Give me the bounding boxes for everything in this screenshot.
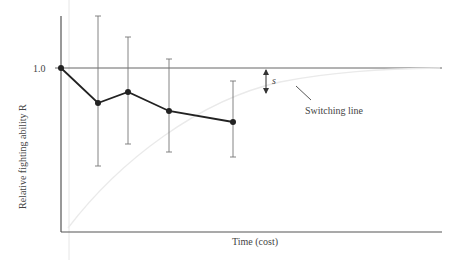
- switching-line-curve: [68, 68, 440, 228]
- switching-line-label: Switching line: [305, 105, 364, 116]
- data-points: [58, 65, 236, 125]
- arrow-down-icon: [263, 88, 269, 94]
- y-axis-label: Relative fighting ability R: [17, 104, 28, 209]
- s-label: s: [272, 75, 276, 86]
- y-tick-1: 1.0: [33, 63, 46, 74]
- arrow-up-icon: [263, 69, 269, 75]
- x-axis-label: Time (cost): [232, 236, 278, 248]
- switching-pointer: [296, 86, 311, 100]
- error-bars: [95, 16, 236, 166]
- data-line: [61, 68, 233, 122]
- chart: s Switching line 1.0 Relative fighting a…: [0, 0, 458, 260]
